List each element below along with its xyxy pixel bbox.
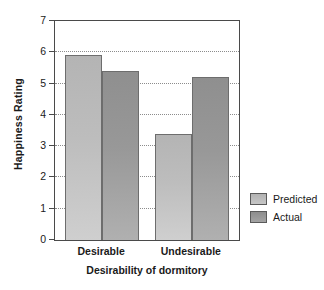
- plot-area: 01234567: [54, 20, 240, 241]
- y-tick-label-4: 4: [40, 108, 46, 121]
- bar-chart-figure: Happiness Rating 01234567 Desirability o…: [0, 0, 324, 290]
- y-tick-mark-3: [49, 145, 55, 146]
- y-tick-mark-5: [49, 83, 55, 84]
- legend-swatch-predicted: [250, 193, 267, 205]
- x-group-label-desirable: Desirable: [64, 245, 138, 257]
- x-group-label-undesirable: Undesirable: [154, 245, 228, 257]
- gridline-6: [55, 51, 239, 52]
- bar-predicted-desirable: [65, 55, 102, 240]
- y-tick-mark-6: [49, 51, 55, 52]
- legend-swatch-actual: [250, 211, 267, 223]
- y-tick-label-7: 7: [40, 14, 46, 27]
- x-axis-title: Desirability of dormitory: [54, 264, 240, 276]
- y-tick-label-2: 2: [40, 170, 46, 183]
- y-tick-label-5: 5: [40, 77, 46, 90]
- y-tick-mark-7: [49, 20, 55, 21]
- y-tick-label-0: 0: [40, 233, 46, 246]
- legend-label-actual: Actual: [273, 211, 302, 223]
- chart-legend: Predicted Actual: [250, 193, 317, 229]
- bar-actual-desirable: [102, 71, 139, 240]
- bar-predicted-undesirable: [155, 134, 192, 240]
- y-tick-mark-4: [49, 114, 55, 115]
- legend-label-predicted: Predicted: [273, 193, 317, 205]
- y-tick-label-6: 6: [40, 45, 46, 58]
- y-tick-label-3: 3: [40, 139, 46, 152]
- plot-inner: 01234567: [55, 21, 239, 240]
- y-tick-mark-0: [49, 239, 55, 240]
- y-tick-mark-1: [49, 208, 55, 209]
- bar-actual-undesirable: [192, 77, 229, 240]
- legend-item-actual: Actual: [250, 211, 317, 223]
- y-tick-label-1: 1: [40, 202, 46, 215]
- y-axis-title: Happiness Rating: [12, 44, 24, 204]
- y-tick-mark-2: [49, 176, 55, 177]
- legend-item-predicted: Predicted: [250, 193, 317, 205]
